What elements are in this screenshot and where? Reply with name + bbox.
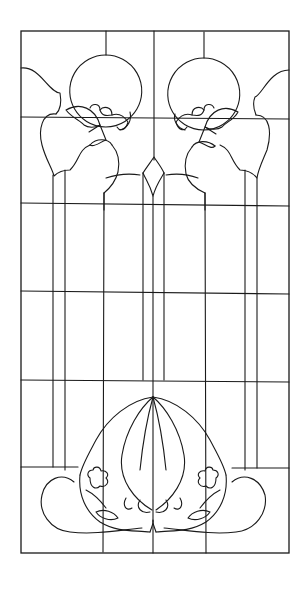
curve-lead-line (174, 498, 182, 509)
horizontal-lead-line (21, 380, 289, 382)
horizontal-lead-line (21, 203, 289, 206)
pattern-svg (0, 0, 304, 589)
curve-lead-line (166, 174, 198, 178)
curve-lead-line (143, 173, 164, 196)
horizontal-lead-line (21, 291, 289, 294)
horizontal-lead-line (21, 117, 289, 119)
curve-lead-line (88, 467, 108, 488)
vertical-lead-line (103, 193, 104, 552)
curve-lead-line (204, 104, 214, 110)
curve-lead-line (104, 145, 119, 193)
curve-lead-line (188, 510, 210, 519)
curve-lead-line (96, 510, 118, 519)
curve-lead-line (21, 68, 61, 114)
curve-lead-line (106, 174, 140, 178)
horizontal-lead-lines (21, 117, 289, 468)
curve-lead-line (200, 490, 220, 508)
curve-lead-line (185, 147, 205, 193)
curve-lead-line (192, 107, 204, 115)
stained-glass-pattern-drawing (0, 0, 304, 589)
curve-lead-line (198, 467, 218, 488)
curve-lead-line (253, 70, 289, 115)
curve-lead-line (90, 104, 100, 110)
curve-lead-line (124, 498, 132, 509)
vertical-lead-line (205, 193, 206, 553)
curve-lead-line (100, 107, 112, 115)
curve-lead-line (220, 115, 269, 178)
